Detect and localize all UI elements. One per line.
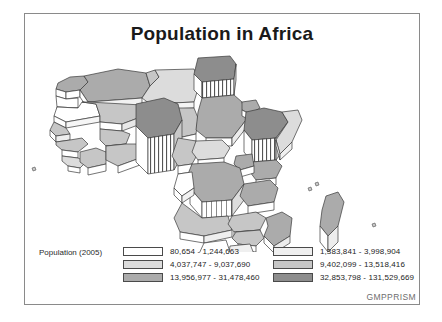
legend-item[interactable]: 80,654 - 1,244,663 <box>123 246 260 257</box>
watermark-label: GMPPRISM <box>367 292 416 302</box>
region-tanzania <box>240 180 278 214</box>
legend-label-class-3: 4,037,747 - 9,037,690 <box>170 260 250 269</box>
page-title: Population in Africa <box>25 23 419 45</box>
legend-label-class-2: 1,383,841 - 3,998,904 <box>320 247 400 256</box>
map-figure: Population in Africa <box>0 0 442 322</box>
legend-swatch-class-4 <box>273 260 313 269</box>
map-legend: Population (2005) 80,654 - 1,244,663 4,0… <box>25 239 419 304</box>
legend-swatch-class-5 <box>123 273 163 282</box>
legend-label-class-5: 13,956,977 - 31,478,460 <box>170 273 260 282</box>
legend-item[interactable]: 13,956,977 - 31,478,460 <box>123 272 260 283</box>
legend-swatch-class-6 <box>273 273 313 282</box>
region-ghana-togo-benin <box>106 144 140 173</box>
map-frame: Population in Africa <box>24 13 420 305</box>
legend-swatch-class-2 <box>273 247 313 256</box>
legend-label-class-1: 80,654 - 1,244,663 <box>170 247 239 256</box>
legend-item[interactable]: 4,037,747 - 9,037,690 <box>123 259 260 270</box>
region-egypt <box>194 56 236 98</box>
legend-label-class-4: 9,402,099 - 13,518,416 <box>320 260 405 269</box>
region-dr-congo <box>188 162 244 218</box>
legend-swatch-class-3 <box>123 260 163 269</box>
region-cote-divoire <box>80 148 106 175</box>
legend-column-right: 1,383,841 - 3,998,904 9,402,099 - 13,518… <box>273 246 414 285</box>
legend-title: Population (2005) <box>39 248 102 257</box>
africa-prism-map <box>26 46 420 252</box>
region-nigeria <box>136 98 182 174</box>
legend-label-class-6: 32,853,798 - 131,529,669 <box>320 273 414 282</box>
legend-item[interactable]: 9,402,099 - 13,518,416 <box>273 259 414 270</box>
legend-column-left: 80,654 - 1,244,663 4,037,747 - 9,037,690… <box>123 246 260 285</box>
legend-swatch-class-1 <box>123 247 163 256</box>
legend-item[interactable]: 32,853,798 - 131,529,669 <box>273 272 414 283</box>
region-sudan <box>196 95 246 146</box>
legend-item[interactable]: 1,383,841 - 3,998,904 <box>273 246 414 257</box>
